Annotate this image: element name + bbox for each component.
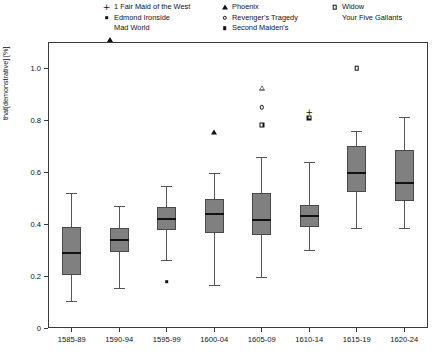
whisker-lower — [309, 227, 310, 250]
whisker-cap-lower — [304, 250, 315, 251]
plus-marker-icon: + — [103, 3, 111, 12]
legend-label: 1 Fair Maid of the West — [114, 2, 190, 13]
legend-label: Widow — [342, 2, 364, 13]
x-tick-mark — [119, 328, 120, 332]
whisker-cap-lower — [114, 288, 125, 289]
median-line — [157, 218, 176, 220]
whisker-lower — [119, 252, 120, 288]
box-iqr — [62, 227, 81, 274]
whisker-upper — [71, 193, 72, 227]
y-tick: 0.6 — [30, 167, 48, 177]
legend-marker — [218, 2, 231, 13]
legend-item[interactable]: Second Maiden's — [218, 23, 338, 34]
legend-marker — [100, 23, 113, 34]
boxplot-group[interactable] — [48, 42, 96, 328]
x-axis-ticks: 1585-891590-941595-991600-041605-091610-… — [0, 328, 443, 359]
legend-item[interactable]: Phoenix — [218, 2, 338, 13]
boxplot-group[interactable]: + — [286, 42, 334, 328]
median-line — [300, 215, 319, 217]
whisker-lower — [261, 235, 262, 277]
whisker-lower — [71, 275, 72, 301]
legend-label: Phoenix — [232, 2, 259, 13]
x-tick-mark — [309, 328, 310, 332]
triangle-open-marker-icon — [107, 28, 113, 42]
x-tick: 1620-24 — [374, 328, 434, 344]
y-tick-label: 0.2 — [30, 272, 41, 281]
legend-marker — [218, 13, 231, 24]
legend-marker — [100, 13, 113, 24]
boxplot-group[interactable] — [333, 42, 381, 328]
legend-item[interactable]: Your Five Gallants — [328, 13, 443, 24]
box-iqr — [395, 150, 414, 200]
whisker-upper — [404, 117, 405, 150]
median-line — [110, 239, 129, 241]
whisker-upper — [356, 131, 357, 146]
x-tick-mark — [71, 328, 72, 332]
legend-marker — [328, 13, 341, 24]
boxplot-group[interactable] — [191, 42, 239, 328]
square-filled-marker-icon — [105, 16, 109, 20]
median-line — [395, 182, 414, 184]
median-line — [62, 252, 81, 254]
square-star-marker-icon — [259, 122, 264, 127]
y-tick: 0.8 — [30, 115, 48, 125]
legend-marker: + — [100, 2, 113, 13]
boxplot-group[interactable] — [381, 42, 429, 328]
legend-item[interactable]: Mad World — [100, 23, 220, 34]
whisker-cap-lower — [351, 228, 362, 229]
legend-column: PhoenixRevenger's TragedySecond Maiden's — [218, 2, 338, 34]
legend-label: Mad World — [114, 23, 150, 34]
x-tick-label: 1620-24 — [374, 335, 434, 344]
y-tick-label: 0.4 — [30, 220, 41, 229]
legend-label: Your Five Gallants — [342, 13, 402, 24]
legend-column: WidowYour Five Gallants — [328, 2, 443, 23]
x-tick-mark — [356, 328, 357, 332]
whisker-cap-upper — [351, 131, 362, 132]
median-line — [252, 219, 271, 221]
legend-marker — [218, 23, 231, 34]
legend-item[interactable]: Edmond Ironside — [100, 13, 220, 24]
median-line — [347, 172, 366, 174]
y-tick-label: 0.6 — [30, 168, 41, 177]
x-tick-mark — [166, 328, 167, 332]
whisker-cap-lower — [66, 301, 77, 302]
boxplot-figure: +1 Fair Maid of the WestEdmond IronsideM… — [0, 0, 443, 359]
whisker-upper — [214, 173, 215, 199]
boxplot-group[interactable] — [238, 42, 286, 328]
whisker-lower — [166, 230, 167, 260]
whisker-cap-upper — [114, 206, 125, 207]
whisker-lower — [214, 233, 215, 285]
triangle-filled-marker-icon — [211, 130, 217, 135]
whisker-cap-lower — [161, 260, 172, 261]
y-tick: 1.0 — [30, 63, 48, 73]
legend-label: Edmond Ironside — [114, 13, 170, 24]
whisker-upper — [166, 186, 167, 207]
x-tick-mark — [214, 328, 215, 332]
whisker-upper — [119, 206, 120, 229]
median-line — [205, 213, 224, 215]
y-axis-ticks: 00.20.40.60.81.0 — [0, 0, 48, 359]
legend-label: Revenger's Tragedy — [232, 13, 298, 24]
triangle-open-marker-icon — [259, 85, 265, 90]
legend-item[interactable]: Widow — [328, 2, 443, 13]
legend-label: Second Maiden's — [232, 23, 288, 34]
whisker-cap-upper — [66, 193, 77, 194]
square-filled-marker-icon — [165, 280, 169, 284]
whisker-cap-lower — [256, 277, 267, 278]
legend-column: +1 Fair Maid of the WestEdmond IronsideM… — [100, 2, 220, 34]
y-tick-label: 1.0 — [30, 64, 41, 73]
legend-marker — [328, 2, 341, 13]
whisker-lower — [356, 192, 357, 228]
box-iqr — [205, 199, 224, 233]
y-tick: 0.2 — [30, 271, 48, 281]
x-tick-mark — [404, 328, 405, 332]
boxplot-group[interactable] — [143, 42, 191, 328]
square-open-marker-icon — [332, 5, 337, 10]
y-tick: 0.4 — [30, 219, 48, 229]
legend-item[interactable]: +1 Fair Maid of the West — [100, 2, 220, 13]
box-iqr — [252, 193, 271, 235]
boxplot-group[interactable] — [96, 42, 144, 328]
whisker-cap-lower — [399, 228, 410, 229]
legend-item[interactable]: Revenger's Tragedy — [218, 13, 338, 24]
whisker-cap-lower — [209, 285, 220, 286]
